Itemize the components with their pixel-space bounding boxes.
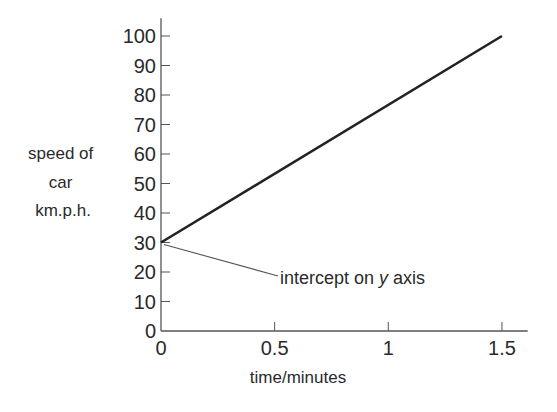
intercept-annotation-label: intercept on y axis bbox=[280, 268, 425, 288]
y-tick-label: 100 bbox=[123, 25, 156, 47]
y-tick-label: 90 bbox=[134, 55, 156, 77]
y-axis-title-line-2: car bbox=[49, 173, 73, 192]
annotation: intercept on y axis bbox=[164, 245, 425, 289]
annotation-suffix: axis bbox=[388, 268, 425, 288]
x-tick-label: 1 bbox=[383, 337, 394, 359]
annotation-prefix: intercept on bbox=[280, 268, 379, 288]
chart: 0102030405060708090100 00.511.5 intercep… bbox=[0, 0, 557, 412]
x-tick-label: 1.5 bbox=[488, 337, 516, 359]
y-tick-label: 10 bbox=[134, 291, 156, 313]
x-axis-title: time/minutes bbox=[250, 368, 346, 387]
x-tick-label: 0.5 bbox=[261, 337, 289, 359]
y-tick-label: 80 bbox=[134, 84, 156, 106]
y-tick-label: 60 bbox=[134, 143, 156, 165]
x-ticks: 00.511.5 bbox=[155, 322, 515, 359]
series-line-speed bbox=[161, 36, 502, 243]
y-tick-label: 70 bbox=[134, 114, 156, 136]
y-axis-title-line-1: speed of bbox=[28, 144, 93, 163]
y-tick-label: 20 bbox=[134, 261, 156, 283]
y-axis-title-line-3: km.p.h. bbox=[35, 201, 91, 220]
series bbox=[161, 36, 502, 243]
x-tick-label: 0 bbox=[155, 337, 166, 359]
y-ticks: 0102030405060708090100 bbox=[123, 25, 170, 342]
y-axis-title: speed of car km.p.h. bbox=[28, 144, 98, 220]
y-tick-label: 40 bbox=[134, 202, 156, 224]
y-tick-label: 50 bbox=[134, 173, 156, 195]
y-tick-label: 30 bbox=[134, 232, 156, 254]
intercept-pointer-line bbox=[164, 245, 278, 277]
y-tick-label: 0 bbox=[145, 320, 156, 342]
